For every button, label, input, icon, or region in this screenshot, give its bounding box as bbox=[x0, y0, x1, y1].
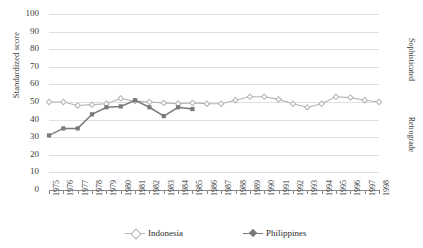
data-point-indonesia bbox=[348, 95, 353, 100]
x-axis-tick-label: 1979 bbox=[109, 180, 118, 196]
y-axis-tick-label: 0 bbox=[11, 185, 39, 194]
y-axis-tick-label: 70 bbox=[11, 62, 39, 71]
x-axis-tick-label: 1990 bbox=[267, 180, 276, 196]
y-axis-tick-label: 30 bbox=[11, 132, 39, 141]
x-axis-tick bbox=[250, 190, 251, 194]
data-point-indonesia bbox=[46, 99, 51, 104]
y-axis-tick-label: 60 bbox=[11, 79, 39, 88]
legend-label-philippines: Philippines bbox=[266, 228, 307, 238]
data-point-philippines bbox=[162, 114, 166, 118]
data-point-philippines bbox=[104, 105, 108, 109]
data-point-philippines bbox=[133, 98, 137, 102]
series-line-indonesia bbox=[49, 97, 379, 108]
x-axis-tick-label: 1987 bbox=[224, 180, 233, 196]
x-axis-tick-label: 1978 bbox=[95, 180, 104, 196]
x-axis-tick bbox=[192, 190, 193, 194]
data-point-philippines bbox=[61, 126, 65, 130]
legend-swatch bbox=[130, 228, 141, 239]
data-point-indonesia bbox=[333, 94, 338, 99]
data-point-indonesia bbox=[290, 101, 295, 106]
x-axis-tick bbox=[279, 190, 280, 194]
series-layer bbox=[49, 14, 379, 190]
data-point-indonesia bbox=[89, 102, 94, 107]
x-axis-tick-label: 1992 bbox=[296, 180, 305, 196]
right-axis-label-retrograde: Retrograde bbox=[407, 105, 416, 165]
data-point-philippines bbox=[76, 126, 80, 130]
x-axis-tick bbox=[78, 190, 79, 194]
x-axis-tick bbox=[221, 190, 222, 194]
plot-area bbox=[49, 14, 379, 190]
x-axis-tick bbox=[135, 190, 136, 194]
x-axis-tick-label: 1994 bbox=[325, 180, 334, 196]
legend-item-indonesia[interactable]: Indonesia bbox=[125, 228, 183, 238]
x-axis-tick bbox=[149, 190, 150, 194]
x-axis-tick bbox=[63, 190, 64, 194]
x-axis-tick bbox=[322, 190, 323, 194]
x-axis-tick-label: 1993 bbox=[310, 180, 319, 196]
x-axis-tick-label: 1988 bbox=[239, 180, 248, 196]
x-axis-tick bbox=[336, 190, 337, 194]
y-axis-tick-label: 40 bbox=[11, 115, 39, 124]
data-point-philippines bbox=[190, 107, 194, 111]
x-axis-tick bbox=[121, 190, 122, 194]
data-point-indonesia bbox=[276, 97, 281, 102]
x-axis-tick-label: 1981 bbox=[138, 180, 147, 196]
data-point-philippines bbox=[119, 104, 123, 108]
legend-marker-philippines bbox=[243, 233, 263, 234]
x-axis-tick-label: 1985 bbox=[195, 180, 204, 196]
x-axis-tick-label: 1986 bbox=[210, 180, 219, 196]
x-axis-tick-label: 1989 bbox=[253, 180, 262, 196]
data-point-indonesia bbox=[118, 96, 123, 101]
data-point-indonesia bbox=[233, 98, 238, 103]
x-axis-tick bbox=[178, 190, 179, 194]
x-axis-tick bbox=[236, 190, 237, 194]
x-axis-tick-label: 1998 bbox=[382, 180, 391, 196]
data-point-indonesia bbox=[61, 99, 66, 104]
legend-label-indonesia: Indonesia bbox=[148, 228, 183, 238]
data-point-indonesia bbox=[161, 100, 166, 105]
data-point-indonesia bbox=[376, 99, 381, 104]
x-axis-tick-label: 1975 bbox=[52, 180, 61, 196]
y-axis-tick-label: 90 bbox=[11, 27, 39, 36]
x-axis-tick-label: 1982 bbox=[152, 180, 161, 196]
x-axis-tick-label: 1984 bbox=[181, 180, 190, 196]
x-axis-tick bbox=[293, 190, 294, 194]
data-point-indonesia bbox=[190, 100, 195, 105]
x-axis-tick bbox=[307, 190, 308, 194]
right-axis-label-sophisticated: Sophisticated bbox=[407, 30, 416, 90]
chart-legend: Indonesia Philippines bbox=[0, 228, 423, 244]
legend-marker-indonesia bbox=[125, 233, 145, 234]
x-axis-tick-label: 1983 bbox=[167, 180, 176, 196]
x-axis-tick bbox=[365, 190, 366, 194]
y-axis-tick-label: 10 bbox=[11, 167, 39, 176]
x-axis-tick bbox=[92, 190, 93, 194]
x-axis-tick-label: 1976 bbox=[66, 180, 75, 196]
x-axis-tick bbox=[264, 190, 265, 194]
x-axis-tick bbox=[350, 190, 351, 194]
data-point-indonesia bbox=[147, 99, 152, 104]
y-axis-tick-label: 20 bbox=[11, 150, 39, 159]
data-point-philippines bbox=[176, 105, 180, 109]
x-axis-tick bbox=[49, 190, 50, 194]
data-point-philippines bbox=[47, 133, 51, 137]
x-axis-tick bbox=[164, 190, 165, 194]
data-point-indonesia bbox=[305, 105, 310, 110]
legend-swatch bbox=[249, 228, 257, 236]
data-point-philippines bbox=[147, 105, 151, 109]
data-point-philippines bbox=[90, 112, 94, 116]
data-point-indonesia bbox=[247, 94, 252, 99]
chart-container: Standardized score 010203040506070809010… bbox=[0, 0, 423, 248]
x-axis-tick-label: 1996 bbox=[353, 180, 362, 196]
data-point-indonesia bbox=[262, 94, 267, 99]
data-point-indonesia bbox=[319, 101, 324, 106]
x-axis-tick-label: 1995 bbox=[339, 180, 348, 196]
data-point-indonesia bbox=[218, 101, 223, 106]
x-axis-tick-label: 1991 bbox=[282, 180, 291, 196]
legend-item-philippines[interactable]: Philippines bbox=[243, 228, 307, 238]
y-axis-tick-label: 80 bbox=[11, 44, 39, 53]
y-axis-tick-label: 100 bbox=[11, 9, 39, 18]
x-axis-tick-label: 1980 bbox=[124, 180, 133, 196]
x-axis-tick-label: 1977 bbox=[81, 180, 90, 196]
x-axis-tick-label: 1997 bbox=[368, 180, 377, 196]
data-point-indonesia bbox=[204, 101, 209, 106]
